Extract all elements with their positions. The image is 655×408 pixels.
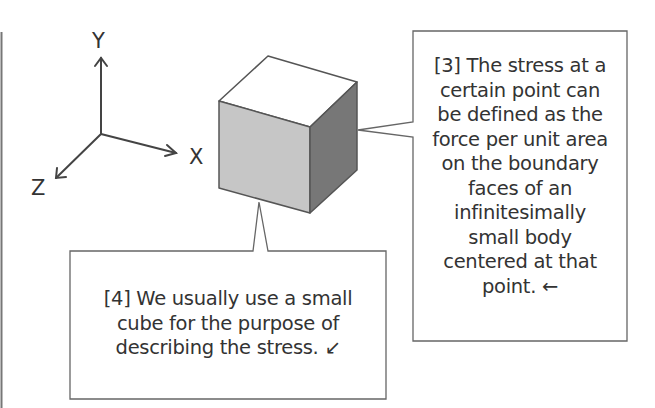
callout-3-line: centered at that [414,250,626,275]
callout-4-line: [4] We usually use a small [71,287,385,312]
cube-icon [219,56,357,213]
callout-3-line: [3] The stress at a [414,54,626,79]
callout-3-line: point. ← [414,275,626,300]
callout-3-text: [3] The stress at a certain point can be… [414,54,626,299]
callout-3-line: on the boundary [414,152,626,177]
z-axis-label: Z [31,178,45,199]
callout-3-line: small body [414,226,626,251]
callout-3-line: certain point can [414,79,626,104]
callout-3-line: force per unit area [414,128,626,153]
x-axis-label: X [189,147,203,168]
callout-3-line: faces of an [414,177,626,202]
stress-cube-diagram: Y X Z [3] The stress at a certain point … [0,0,655,408]
coordinate-axes-icon [56,58,176,178]
callout-4-text: [4] We usually use a small cube for the … [71,287,385,361]
z-axis-line [56,134,101,178]
callout-3-line: infinitesimally [414,201,626,226]
callout-4-line: cube for the purpose of [71,312,385,337]
x-axis-line [101,134,176,153]
callout-3-line: be defined as the [414,103,626,128]
callout-4-line: describing the stress. ↙ [71,336,385,361]
y-axis-label: Y [92,31,105,52]
